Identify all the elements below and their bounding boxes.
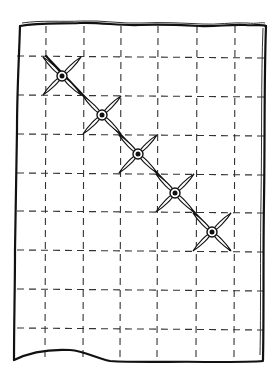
- grid-row-line: [17, 250, 264, 252]
- paper-border: [14, 21, 266, 362]
- cross-stitch-icon: [155, 173, 196, 214]
- cross-stitch-icon: [42, 56, 83, 97]
- grid-column-line: [234, 26, 235, 358]
- grid-row-line: [17, 211, 264, 213]
- grid-column-line: [120, 26, 121, 358]
- grid-column-line: [45, 26, 46, 358]
- grid-row-line: [17, 95, 264, 97]
- grid-row-line: [17, 173, 264, 175]
- grid-column-line: [83, 26, 84, 358]
- cross-stitch-icon: [82, 95, 123, 136]
- grid-row-line: [17, 56, 264, 58]
- grid-row-line: [17, 289, 264, 291]
- cross-stitch-icon: [192, 212, 233, 253]
- grid-column-line: [196, 26, 197, 358]
- grid-column-line: [157, 26, 158, 358]
- dashed-grid: [17, 26, 264, 358]
- grid-sketch: [0, 0, 276, 384]
- cross-stitch-marks: [42, 56, 233, 253]
- grid-row-line: [17, 134, 264, 136]
- cross-stitch-icon: [118, 134, 159, 175]
- grid-row-line: [17, 328, 264, 330]
